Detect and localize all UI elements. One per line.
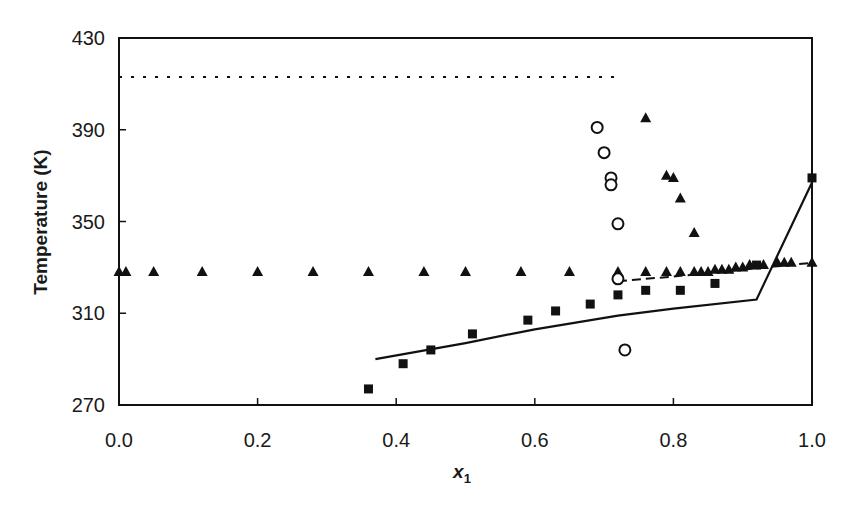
- triangle-marker: [564, 266, 575, 276]
- plot-frame: [119, 38, 812, 405]
- y-axis-tick-labels: 270310350390430: [72, 27, 105, 416]
- y-tick-label: 390: [72, 119, 105, 141]
- circle-marker: [599, 147, 610, 158]
- triangle-marker: [675, 193, 686, 203]
- circle-marker: [619, 344, 630, 355]
- triangle-marker: [363, 266, 374, 276]
- square-marker: [586, 300, 595, 309]
- x-axis-title-subscript: 1: [464, 471, 471, 486]
- series-markers: [114, 112, 818, 393]
- square-marker: [468, 329, 477, 338]
- chart-canvas: 270310350390430 0.00.20.40.60.81.0 Tempe…: [0, 0, 855, 523]
- triangle-marker: [148, 266, 159, 276]
- y-tick-label: 270: [72, 394, 105, 416]
- triangle-marker: [640, 266, 651, 276]
- square-marker: [808, 173, 817, 182]
- y-tick-label: 430: [72, 27, 105, 49]
- square-marker: [364, 384, 373, 393]
- triangle-marker: [786, 257, 797, 267]
- x-tick-label: 0.8: [659, 429, 687, 451]
- circle-marker: [592, 122, 603, 133]
- y-tick-label: 310: [72, 302, 105, 324]
- series-lines: [119, 77, 812, 359]
- square-marker: [613, 290, 622, 299]
- x-tick-label: 0.6: [521, 429, 549, 451]
- square-marker: [710, 279, 719, 288]
- x-tick-label: 0.2: [244, 429, 272, 451]
- x-tick-label: 1.0: [798, 429, 826, 451]
- circle-marker: [606, 179, 617, 190]
- x-tick-label: 0.4: [382, 429, 410, 451]
- square-marker: [641, 286, 650, 295]
- triangle-marker: [460, 266, 471, 276]
- circle-marker: [612, 218, 623, 229]
- square-marker: [523, 316, 532, 325]
- triangle-marker: [807, 257, 818, 267]
- axis-ticks: [119, 38, 812, 405]
- triangle-marker: [197, 266, 208, 276]
- triangle-marker: [675, 266, 686, 276]
- circle-marker: [612, 273, 623, 284]
- triangle-marker: [661, 266, 672, 276]
- triangle-marker: [689, 227, 700, 237]
- triangle-marker: [515, 266, 526, 276]
- triangle-marker: [120, 266, 131, 276]
- x-axis-tick-labels: 0.00.20.40.60.81.0: [105, 429, 826, 451]
- x-axis-title: x1: [452, 461, 471, 486]
- x-tick-label: 0.0: [105, 429, 133, 451]
- triangle-marker: [308, 266, 319, 276]
- y-tick-label: 350: [72, 211, 105, 233]
- square-marker: [551, 306, 560, 315]
- triangle-marker: [252, 266, 263, 276]
- square-marker: [676, 286, 685, 295]
- triangle-marker: [418, 266, 429, 276]
- square-marker: [426, 345, 435, 354]
- triangle-marker: [640, 112, 651, 122]
- y-axis-title: Temperature (K): [30, 149, 51, 294]
- square-marker: [399, 359, 408, 368]
